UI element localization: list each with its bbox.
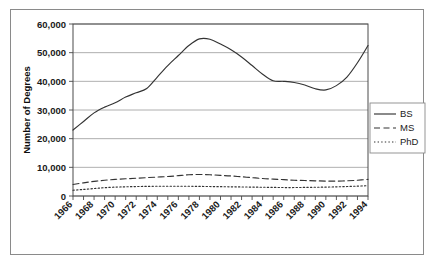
- y-tick-label: 50,000: [37, 47, 66, 58]
- y-tick-label: 30,000: [37, 105, 66, 116]
- x-tick-label: 1978: [178, 199, 201, 222]
- y-axis-tick-labels: 010,00020,00030,00040,00050,00060,000: [37, 19, 66, 202]
- y-axis-ticks: [69, 24, 73, 196]
- y-tick-label: 40,000: [37, 76, 66, 87]
- legend-label-bs: BS: [400, 108, 413, 119]
- y-tick-label: 10,000: [37, 162, 66, 173]
- legend-label-ms: MS: [400, 122, 414, 133]
- x-tick-label: 1968: [73, 199, 96, 222]
- x-tick-label: 1976: [157, 199, 180, 222]
- x-tick-label: 1980: [199, 199, 222, 222]
- series-line-phd: [73, 186, 368, 191]
- series-line-ms: [73, 175, 368, 185]
- chart-legend: BSMSPhD: [370, 103, 425, 153]
- x-tick-label: 1990: [305, 199, 328, 222]
- y-axis-title-text: Number of Degrees: [21, 66, 32, 154]
- y-tick-label: 20,000: [37, 133, 66, 144]
- x-axis-tick-labels: 1966196819701972197419761978198019821984…: [52, 198, 370, 221]
- series-line-bs: [73, 38, 368, 130]
- x-axis-ticks: [73, 196, 368, 200]
- x-tick-label: 1988: [283, 199, 306, 222]
- figure-container: 010,00020,00030,00040,00050,00060,000 19…: [0, 0, 433, 273]
- x-tick-label: 1974: [136, 198, 159, 221]
- y-axis-title: Number of Degrees: [21, 66, 32, 154]
- x-tick-label: 1982: [220, 199, 243, 222]
- legend-label-phd: PhD: [400, 136, 419, 147]
- x-tick-label: 1984: [241, 198, 264, 221]
- line-chart: 010,00020,00030,00040,00050,00060,000 19…: [0, 0, 433, 273]
- x-tick-label: 1986: [262, 199, 285, 222]
- x-tick-label: 1966: [52, 199, 75, 222]
- gridlines-group: [73, 24, 368, 196]
- x-tick-label: 1970: [94, 199, 117, 222]
- x-tick-label: 1994: [347, 198, 370, 221]
- x-tick-label: 1992: [326, 199, 349, 222]
- x-tick-label: 1972: [115, 199, 138, 222]
- y-tick-label: 60,000: [37, 19, 66, 30]
